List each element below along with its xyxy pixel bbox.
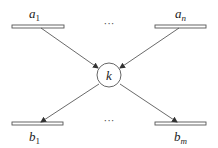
label-a1: a1 bbox=[29, 6, 40, 23]
ellipsis-bottom: ··· bbox=[104, 114, 115, 126]
input-bar-an bbox=[155, 25, 206, 28]
label-bm: bm bbox=[174, 129, 188, 146]
arrow-k-to-b1 bbox=[41, 84, 99, 122]
center-node-label: k bbox=[106, 68, 112, 83]
label-an: an bbox=[175, 6, 187, 23]
diagram-canvas: k a1 an b1 bm ··· ··· bbox=[0, 0, 218, 148]
ellipsis-top: ··· bbox=[104, 17, 115, 29]
output-bar-b1 bbox=[12, 122, 63, 125]
label-b1: b1 bbox=[29, 129, 40, 146]
output-bar-bm bbox=[155, 122, 206, 125]
input-bar-a1 bbox=[12, 25, 64, 28]
arrow-k-to-bm bbox=[120, 84, 177, 122]
arrow-an-to-k bbox=[120, 28, 179, 68]
arrow-a1-to-k bbox=[41, 28, 98, 68]
